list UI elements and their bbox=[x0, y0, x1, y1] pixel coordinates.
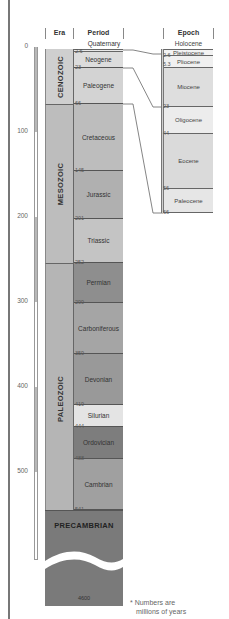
footnote-line: * Numbers are bbox=[130, 598, 186, 607]
period-header: Period bbox=[74, 29, 123, 36]
epoch-pliocene: Pliocene bbox=[164, 56, 213, 68]
boundary-label: 2.6 bbox=[163, 52, 171, 58]
footnote-line: millions of years bbox=[130, 607, 186, 616]
period-label: Cretaceous bbox=[82, 134, 115, 141]
epoch-label: Pliocene bbox=[177, 59, 200, 65]
scale-label: 400 bbox=[6, 382, 28, 389]
boundary-label: 4600 bbox=[45, 595, 123, 601]
boundary-label: 359 bbox=[75, 350, 84, 356]
left-border bbox=[8, 0, 10, 619]
period-cretaceous: Cretaceous bbox=[74, 104, 123, 171]
period-carboniferous: Carboniferous bbox=[74, 303, 123, 354]
period-label: Cambrian bbox=[84, 481, 112, 488]
era-label: PRECAMBRIAN bbox=[45, 521, 123, 530]
epoch-oligocene: Oligocene bbox=[164, 107, 213, 134]
era-label: MESOZOIC bbox=[55, 163, 64, 205]
scale-band bbox=[34, 472, 38, 560]
scale-label: 0 bbox=[6, 42, 28, 49]
period-label: Devonian bbox=[85, 376, 112, 383]
period-label: Ordovician bbox=[83, 439, 114, 446]
epoch-pleistocene: Pleistocene bbox=[164, 49, 213, 56]
scale-band bbox=[34, 132, 38, 217]
boundary-label: 56 bbox=[163, 185, 169, 191]
period-jurassic: Jurassic bbox=[74, 171, 123, 219]
scale-label: 200 bbox=[6, 212, 28, 219]
period-label: Permian bbox=[86, 279, 110, 286]
scale-band bbox=[34, 387, 38, 472]
epoch-eocene: Eocene bbox=[164, 134, 213, 189]
boundary-label: 488 bbox=[75, 455, 84, 461]
boundary-label: 145 bbox=[75, 167, 84, 173]
epoch-label: Paleocene bbox=[174, 198, 202, 204]
boundary-label: 201 bbox=[75, 215, 84, 221]
period-label: Silurian bbox=[88, 412, 110, 419]
epoch-header: Epoch bbox=[164, 29, 213, 36]
era-paleozoic: PALEOZOIC bbox=[45, 263, 74, 510]
period-triassic: Triassic bbox=[74, 219, 123, 263]
era-label: CENOZOIC bbox=[55, 56, 64, 98]
time-break-wave-icon bbox=[45, 547, 123, 571]
epoch-miocene: Miocene bbox=[164, 68, 213, 107]
period-label: Paleogene bbox=[83, 82, 114, 89]
holocene-label: Holocene bbox=[164, 40, 213, 47]
period-neogene: Neogene bbox=[74, 52, 123, 68]
boundary-label: 23 bbox=[75, 64, 81, 70]
boundary-label: 66 bbox=[163, 209, 169, 215]
period-devonian: Devonian bbox=[74, 354, 123, 405]
boundary-label: 44 bbox=[163, 130, 169, 136]
boundary-label: 252 bbox=[75, 259, 84, 265]
scale-band bbox=[34, 47, 38, 132]
epoch-label: Pleistocene bbox=[173, 50, 204, 56]
epoch-label: Oligocene bbox=[175, 117, 202, 123]
era-precambrian: PRECAMBRIAN 4600 bbox=[45, 510, 123, 606]
period-label: Neogene bbox=[85, 56, 111, 63]
boundary-label: 23 bbox=[163, 103, 169, 109]
boundary-label: 5.3 bbox=[163, 61, 171, 67]
epoch-paleocene: Paleocene bbox=[164, 189, 213, 213]
period-permian: Permian bbox=[74, 263, 123, 303]
era-cenozoic: CENOZOIC bbox=[45, 49, 74, 104]
footnote: * Numbers are millions of years bbox=[130, 598, 186, 616]
scale-label: 100 bbox=[6, 127, 28, 134]
boundary-label: 2.6 bbox=[75, 48, 83, 54]
connector-lines bbox=[123, 40, 165, 220]
period-label: Carboniferous bbox=[78, 325, 119, 332]
boundary-label: 66 bbox=[75, 100, 81, 106]
header-separator bbox=[123, 28, 124, 39]
epoch-label: Miocene bbox=[177, 84, 200, 90]
boundary-label: 419 bbox=[75, 401, 84, 407]
period-label: Triassic bbox=[87, 237, 109, 244]
header-separator bbox=[213, 28, 214, 39]
scale-band bbox=[34, 217, 38, 302]
period-cambrian: Cambrian bbox=[74, 459, 123, 510]
boundary-label: 444 bbox=[75, 423, 84, 429]
period-label: Jurassic bbox=[87, 191, 111, 198]
era-label: PALEOZOIC bbox=[55, 376, 64, 422]
period-paleogene: Paleogene bbox=[74, 68, 123, 104]
scale-label: 500 bbox=[6, 467, 28, 474]
epoch-label: Eocene bbox=[178, 158, 198, 164]
scale-band bbox=[34, 302, 38, 387]
era-mesozoic: MESOZOIC bbox=[45, 104, 74, 263]
boundary-label: 299 bbox=[75, 299, 84, 305]
scale-label: 300 bbox=[6, 297, 28, 304]
era-header: Era bbox=[46, 29, 73, 36]
